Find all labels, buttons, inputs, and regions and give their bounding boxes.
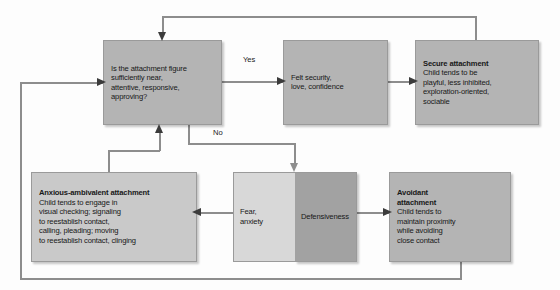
- edge-top-feedback: [162, 16, 477, 18]
- edge-left-loop-up: [20, 82, 22, 279]
- node-secure-attachment-line-3: exploration-oriented,: [423, 87, 531, 97]
- node-anxious-ambivalent-attachment[interactable]: Anxious-ambivalent attachment Child tend…: [31, 172, 197, 262]
- node-anxious-line-2: visual checking; signaling: [39, 207, 189, 217]
- edge-anxious-up2: [159, 132, 161, 151]
- node-felt-security-line-2: love, confidence: [291, 83, 380, 93]
- node-anxious-line-3: to reestablish contact,: [39, 217, 189, 227]
- node-avoidant-line-2: maintain proximity: [397, 217, 503, 227]
- node-fear-line-1: Fear,: [240, 207, 289, 217]
- node-question-line-3: attentive, responsive,: [111, 83, 214, 93]
- node-avoidant-attachment[interactable]: Avoidant attachment Child tends to maint…: [389, 172, 511, 262]
- edge-anxious-right: [108, 150, 160, 152]
- node-secure-attachment-title: Secure attachment: [423, 59, 531, 69]
- edge-no-down: [188, 125, 190, 144]
- edge-no-down2: [294, 143, 296, 165]
- node-secure-attachment-line-2: playful, less inhibited,: [423, 78, 531, 88]
- node-avoidant-line-3: while avoiding: [397, 227, 503, 237]
- edge-secure-up: [475, 16, 477, 41]
- edge-question-to-felt: [222, 81, 285, 83]
- node-avoidant-title-line-1: Avoidant: [397, 188, 503, 198]
- node-question-line-1: Is the attachment figure: [111, 63, 214, 73]
- arrowhead-to-felt: [277, 77, 286, 85]
- node-question-line-2: sufficiently near,: [111, 73, 214, 83]
- node-felt-security[interactable]: Felt security, love, confidence: [283, 40, 388, 125]
- edge-no-right: [188, 143, 296, 145]
- node-fear-line-2: anxiety: [240, 217, 289, 227]
- edge-left-loop-into-question: [20, 82, 105, 84]
- node-fear-anxiety[interactable]: Fear, anxiety: [233, 172, 295, 262]
- node-defensiveness-label: Defensiveness: [301, 212, 350, 222]
- node-anxious-title: Anxious-ambivalent attachment: [39, 188, 189, 198]
- edge-label-yes: Yes: [243, 55, 255, 64]
- edge-anxious-up: [108, 150, 110, 173]
- node-anxious-line-5: to reestablish contact, clinging: [39, 236, 189, 246]
- flowchart-canvas: Yes No Is the attachment figure sufficie…: [0, 0, 560, 290]
- node-felt-security-line-1: Felt security,: [291, 73, 380, 83]
- arrowhead-top-feedback-to-question: [158, 32, 166, 41]
- arrowhead-anxious-to-question: [155, 124, 163, 133]
- node-anxious-line-1: Child tends to engage in: [39, 198, 189, 208]
- node-question-line-4: approving?: [111, 92, 214, 102]
- node-secure-attachment-line-1: Child tends to be: [423, 68, 531, 78]
- node-question[interactable]: Is the attachment figure sufficiently ne…: [103, 40, 222, 125]
- node-secure-attachment[interactable]: Secure attachment Child tends to be play…: [415, 40, 539, 125]
- node-defensiveness[interactable]: Defensiveness: [295, 172, 357, 262]
- node-avoidant-line-1: Child tends to: [397, 207, 503, 217]
- node-secure-attachment-line-4: sociable: [423, 97, 531, 107]
- node-anxious-line-4: calling, pleading; moving: [39, 227, 189, 237]
- arrowhead-left-loop-to-question: [97, 78, 106, 86]
- node-avoidant-line-4: close contact: [397, 236, 503, 246]
- arrowhead-to-secure: [409, 77, 418, 85]
- edge-label-no: No: [213, 128, 223, 137]
- arrowhead-to-avoidant: [383, 208, 392, 216]
- arrowhead-to-anxious: [192, 208, 201, 216]
- edge-fear-to-anxious: [199, 212, 235, 214]
- node-avoidant-title-line-2: attachment: [397, 198, 503, 208]
- edge-bottom-loop: [20, 278, 462, 280]
- arrowhead-no-to-fear: [290, 163, 298, 172]
